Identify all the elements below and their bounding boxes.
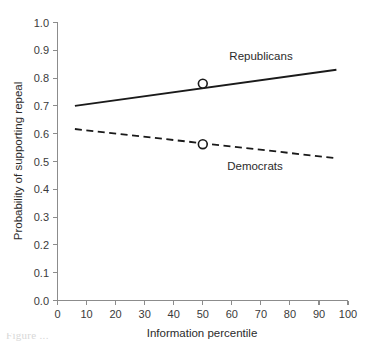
series-republicans: Republicans [75,50,337,106]
x-tick-label-70: 70 [255,308,267,320]
x-tick-label-60: 60 [226,308,238,320]
y-tick-labels: 1.0 0.9 0.8 0.7 0.6 0.5 0.4 0.3 0.2 0.1 … [34,17,49,307]
y-tick-label-0.8: 0.8 [34,72,49,84]
y-tick-label-0.3: 0.3 [34,211,49,223]
y-tick-label-0.9: 0.9 [34,44,49,56]
figure-container: 1.0 0.9 0.8 0.7 0.6 0.5 0.4 0.3 0.2 0.1 … [0,0,367,345]
y-tick-label-0.4: 0.4 [34,183,49,195]
y-tick-label-0.2: 0.2 [34,239,49,251]
line-chart: 1.0 0.9 0.8 0.7 0.6 0.5 0.4 0.3 0.2 0.1 … [0,0,367,345]
x-tick-label-50: 50 [197,308,209,320]
axes-group [58,22,349,301]
x-axis-title: Information percentile [147,327,258,339]
x-tick-label-20: 20 [109,308,121,320]
republicans-label: Republicans [229,50,293,62]
y-axis-title: Probability of supporting repeal [12,82,24,241]
y-tick-marks [53,23,58,301]
democrats-label: Democrats [227,160,283,172]
x-tick-labels: 0 10 20 30 40 50 60 70 80 90 100 [54,308,357,320]
y-tick-label-0.1: 0.1 [34,267,49,279]
x-tick-label-40: 40 [168,308,180,320]
x-tick-label-0: 0 [54,308,60,320]
y-tick-label-0.5: 0.5 [34,156,49,168]
x-tick-label-10: 10 [80,308,92,320]
republicans-marker [198,79,207,88]
x-tick-marks [58,301,349,306]
x-tick-label-30: 30 [139,308,151,320]
series-democrats: Democrats [75,129,337,172]
x-tick-label-90: 90 [313,308,325,320]
y-tick-label-1.0: 1.0 [34,17,49,29]
democrats-marker [198,140,207,149]
x-tick-label-100: 100 [339,308,357,320]
y-tick-label-0.0: 0.0 [34,295,49,307]
y-tick-label-0.7: 0.7 [34,100,49,112]
y-tick-label-0.6: 0.6 [34,128,49,140]
x-tick-label-80: 80 [284,308,296,320]
